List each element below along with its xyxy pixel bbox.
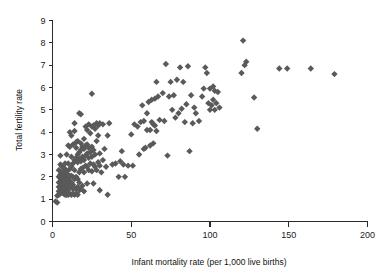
data-point [95, 132, 101, 138]
data-point [183, 101, 189, 107]
data-point [161, 118, 167, 124]
data-point [97, 150, 103, 156]
data-point [144, 110, 150, 116]
y-axis-tick-label: 7 [40, 60, 45, 70]
data-point [104, 192, 110, 198]
data-point [186, 148, 192, 154]
data-point [57, 152, 63, 158]
data-point [128, 131, 134, 137]
data-point [130, 162, 136, 168]
data-point [331, 71, 337, 77]
data-point [188, 92, 194, 98]
data-point [199, 93, 205, 99]
data-point [156, 117, 162, 123]
data-point [166, 93, 172, 99]
data-point [164, 152, 170, 158]
x-axis-tick-group: 050100150200 [50, 222, 375, 240]
data-point [308, 65, 314, 71]
data-point [90, 180, 96, 186]
data-point [171, 92, 177, 98]
y-axis-tick-label: 6 [40, 83, 45, 93]
data-point [169, 107, 175, 113]
data-point [104, 132, 110, 138]
y-axis-tick-group: 0123456789 [40, 16, 52, 227]
data-point [284, 65, 290, 71]
data-point [191, 104, 197, 110]
data-point [276, 65, 282, 71]
data-point [254, 126, 260, 132]
data-point [119, 148, 125, 154]
y-axis-tick-label: 4 [40, 127, 45, 137]
x-axis-tick-label: 150 [281, 230, 296, 240]
y-axis-title: Total fertility rate [14, 89, 24, 151]
data-point [101, 146, 107, 152]
data-point [139, 102, 145, 108]
data-point [163, 61, 169, 67]
data-point [238, 70, 244, 76]
data-point [122, 174, 128, 180]
data-point [251, 94, 257, 100]
data-point [153, 79, 159, 85]
x-axis-tick-label: 100 [202, 230, 217, 240]
y-axis-tick-label: 2 [40, 172, 45, 182]
data-point [167, 79, 173, 85]
data-point [115, 174, 121, 180]
data-point [89, 91, 95, 97]
data-point [201, 85, 207, 91]
y-axis-tick-label: 8 [40, 38, 45, 48]
y-axis-tick-label: 3 [40, 150, 45, 160]
plot-canvas: 0123456789 050100150200 Infant mortality… [0, 0, 390, 272]
data-point [174, 76, 180, 82]
x-axis-tick-label: 50 [126, 230, 136, 240]
data-point [182, 119, 188, 125]
data-point [71, 120, 77, 126]
data-point [180, 79, 186, 85]
data-point [204, 70, 210, 76]
data-point [93, 138, 99, 144]
x-axis-tick-label: 200 [360, 230, 375, 240]
y-axis-tick-label: 5 [40, 105, 45, 115]
data-point [189, 120, 195, 126]
y-axis-tick-label: 1 [40, 194, 45, 204]
y-axis-tick-label: 9 [40, 16, 45, 26]
scatter-plot-figure: 0123456789 050100150200 Infant mortality… [0, 0, 390, 272]
data-point [240, 37, 246, 43]
data-point [196, 118, 202, 124]
data-point [136, 151, 142, 157]
data-point [97, 187, 103, 193]
x-axis-tick-label: 0 [50, 230, 55, 240]
y-axis-tick-label: 0 [40, 217, 45, 227]
data-point [106, 120, 112, 126]
x-axis-title: Infant mortality rate (per 1,000 live bi… [132, 257, 287, 267]
data-point [185, 63, 191, 69]
data-point [103, 164, 109, 170]
data-points-group [52, 37, 337, 205]
data-point [193, 110, 199, 116]
data-point [177, 64, 183, 70]
data-point [202, 64, 208, 70]
data-point [160, 90, 166, 96]
data-point [153, 128, 159, 134]
